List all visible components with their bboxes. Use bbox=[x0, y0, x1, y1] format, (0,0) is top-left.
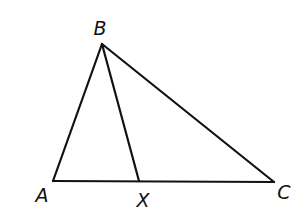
vertex-label-c: C bbox=[277, 183, 290, 202]
segment-bc bbox=[102, 44, 274, 182]
triangle-diagram: B A X C bbox=[0, 0, 306, 219]
segment-ab bbox=[53, 44, 102, 181]
vertex-label-a: A bbox=[36, 186, 49, 205]
vertex-label-b: B bbox=[93, 19, 106, 38]
point-label-x: X bbox=[136, 191, 149, 210]
segment-bx bbox=[102, 44, 139, 181]
segment-ac bbox=[53, 181, 274, 182]
